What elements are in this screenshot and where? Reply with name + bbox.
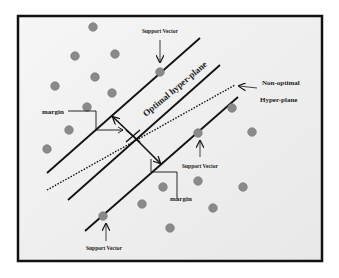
data-point-class-a xyxy=(108,89,117,98)
svg-text:Support Vector: Support Vector xyxy=(142,28,178,34)
margin-label-right: margin xyxy=(170,195,192,203)
data-point-class-a xyxy=(83,103,92,112)
data-point-class-a xyxy=(91,73,100,82)
support-vector-point xyxy=(99,212,108,221)
support-vector-point xyxy=(156,68,165,77)
svg-text:Hyper-plane: Hyper-plane xyxy=(260,96,297,104)
data-point-class-b xyxy=(159,183,168,192)
data-point-class-b xyxy=(248,128,257,137)
data-point-class-b xyxy=(209,204,218,213)
data-point-class-a xyxy=(111,50,120,59)
margin-label-left: margin xyxy=(42,108,64,116)
data-point-class-b xyxy=(166,224,175,233)
svg-text:Non-optimal: Non-optimal xyxy=(262,79,300,87)
data-point-class-b xyxy=(194,177,203,186)
data-point-class-a xyxy=(51,82,60,91)
data-point-class-a xyxy=(89,23,98,32)
data-point-class-a xyxy=(65,126,74,135)
data-point-class-b xyxy=(228,104,237,113)
svm-hyperplane-diagram: margin margin Support Vector Support Vec… xyxy=(0,0,339,278)
data-point-class-a xyxy=(71,52,80,61)
data-point-class-b xyxy=(138,200,147,209)
svg-text:Support Vector: Support Vector xyxy=(86,245,122,251)
data-point-class-a xyxy=(43,145,52,154)
support-vector-point xyxy=(194,129,203,138)
svg-text:Support Vector: Support Vector xyxy=(182,163,218,169)
data-point-class-b xyxy=(239,183,248,192)
